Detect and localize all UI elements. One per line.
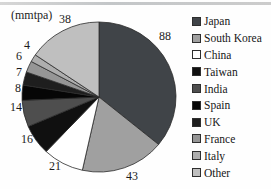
slice-value-label-france: 6	[16, 50, 22, 62]
legend-item-south-korea: South Korea	[192, 30, 262, 47]
legend-label-spain: Spain	[204, 99, 230, 111]
legend-item-china: China	[192, 47, 262, 64]
legend-item-france: France	[192, 131, 262, 148]
legend-label-taiwan: Taiwan	[204, 66, 238, 78]
legend-label-india: India	[204, 83, 228, 95]
slice-value-label-uk: 7	[16, 66, 22, 78]
legend-marker-italy	[192, 151, 201, 160]
figure-canvas: (mmtpa) 88 43 21 16 14 8 7 6 4 38 JapanS…	[0, 0, 271, 189]
slice-value-label-china: 21	[49, 160, 61, 172]
legend: JapanSouth KoreaChinaTaiwanIndiaSpainUKF…	[192, 13, 262, 181]
legend-label-south-korea: South Korea	[204, 32, 262, 44]
legend-label-uk: UK	[204, 116, 221, 128]
legend-marker-spain	[192, 101, 201, 110]
legend-marker-france	[192, 134, 201, 143]
legend-item-other: Other	[192, 164, 262, 181]
slice-value-label-other: 38	[59, 13, 71, 25]
legend-item-uk: UK	[192, 114, 262, 131]
legend-marker-india	[192, 84, 201, 93]
legend-label-france: France	[204, 133, 235, 145]
legend-item-india: India	[192, 80, 262, 97]
slice-value-label-japan: 88	[159, 30, 171, 42]
slice-value-label-italy: 4	[24, 39, 30, 51]
legend-marker-south-korea	[192, 34, 201, 43]
legend-label-italy: Italy	[204, 150, 225, 162]
legend-label-china: China	[204, 49, 231, 61]
slice-value-label-taiwan: 16	[21, 133, 33, 145]
legend-marker-china	[192, 50, 201, 59]
legend-label-other: Other	[204, 167, 230, 179]
legend-item-japan: Japan	[192, 13, 262, 30]
legend-item-italy: Italy	[192, 147, 262, 164]
slice-value-label-spain: 8	[15, 82, 21, 94]
legend-marker-taiwan	[192, 67, 201, 76]
legend-marker-japan	[192, 17, 201, 26]
legend-item-taiwan: Taiwan	[192, 63, 262, 80]
slice-value-label-india: 14	[10, 101, 22, 113]
legend-label-japan: Japan	[204, 15, 230, 27]
legend-item-spain: Spain	[192, 97, 262, 114]
legend-marker-uk	[192, 118, 201, 127]
legend-marker-other	[192, 168, 201, 177]
slice-value-label-south-korea: 43	[126, 170, 138, 182]
